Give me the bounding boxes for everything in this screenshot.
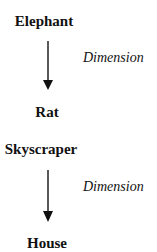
- relation-label-1: Dimension: [83, 50, 144, 66]
- arrow-down-icon-1: [43, 41, 53, 90]
- relation-label-2: Dimension: [83, 179, 144, 195]
- node-bottom-2: House: [27, 235, 67, 252]
- arrows: [0, 0, 157, 252]
- node-bottom-1: Rat: [35, 104, 58, 121]
- node-top-2: Skyscraper: [5, 141, 78, 158]
- arrow-down-icon-2: [43, 170, 53, 222]
